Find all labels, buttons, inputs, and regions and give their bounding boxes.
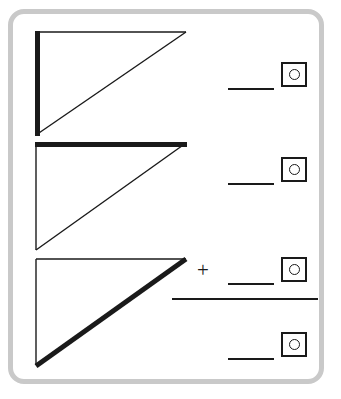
answer-blank-3[interactable] [228, 283, 274, 285]
unit-box-2[interactable] [281, 157, 307, 182]
answer-blank-2[interactable] [228, 183, 274, 185]
plus-operator: + [195, 262, 211, 278]
circle-in-square-icon [289, 264, 300, 275]
answer-blank-4[interactable] [228, 358, 274, 360]
unit-box-4[interactable] [281, 332, 307, 357]
triangle-3 [36, 259, 186, 366]
unit-box-1[interactable] [281, 62, 307, 87]
circle-in-square-icon [289, 164, 300, 175]
circle-in-square-icon [289, 339, 300, 350]
triangle-1 [36, 31, 186, 136]
triangle-2 [35, 143, 187, 250]
answer-blank-1[interactable] [228, 88, 274, 90]
worksheet-canvas: + [0, 0, 341, 399]
circle-in-square-icon [289, 69, 300, 80]
addition-rule [172, 298, 318, 300]
unit-box-3[interactable] [281, 257, 307, 282]
